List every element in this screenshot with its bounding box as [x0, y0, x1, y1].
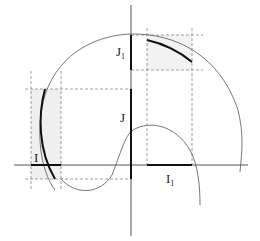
label-I1: I1 — [166, 171, 174, 188]
shaded-region-top — [147, 35, 192, 70]
label-I: I — [34, 150, 38, 165]
label-J: J — [120, 110, 125, 125]
label-J1: J1 — [116, 44, 125, 61]
outer-curve — [40, 34, 242, 190]
diagram-canvas: I I1 J J1 — [0, 0, 260, 241]
